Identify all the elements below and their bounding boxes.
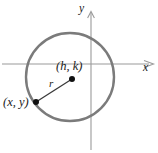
center-point-label: (h, k) — [56, 60, 82, 73]
diagram-canvas — [0, 0, 158, 153]
radius-label: r — [49, 78, 53, 89]
y-axis-label: y — [79, 3, 84, 15]
x-axis-label: x — [143, 62, 148, 74]
radius-segment — [36, 79, 72, 102]
circle-point-dot — [33, 99, 39, 105]
y-axis-group — [88, 12, 95, 151]
circle-point-label: (x, y) — [3, 96, 29, 109]
circle-diagram-figure: (h, k) (x, y) r x y — [0, 0, 158, 153]
center-point-dot — [69, 76, 75, 82]
